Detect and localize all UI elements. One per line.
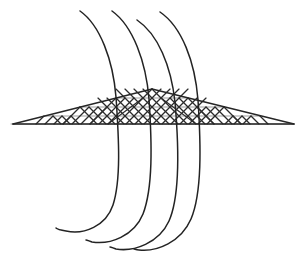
lattice-line-a: [233, 116, 241, 124]
plane-lattice: [36, 89, 268, 124]
lattice-line-b: [117, 89, 152, 124]
lattice-line-b: [90, 107, 107, 124]
lattice-line-b: [243, 116, 251, 124]
lattice-line-a: [134, 89, 169, 124]
field-lines-group: [56, 11, 200, 250]
lattice-line-a: [206, 107, 223, 124]
lattice-line-a: [53, 116, 61, 124]
lattice-line-b: [63, 116, 71, 124]
plane-row-lines: [11, 98, 293, 124]
lattice-line-a: [98, 107, 115, 124]
field-lines-through-plane-figure: [0, 0, 301, 260]
lattice-line-b: [198, 107, 215, 124]
lattice-line-b: [135, 89, 170, 124]
lattice-line-b: [72, 107, 89, 124]
lattice-line-b: [234, 116, 242, 124]
lattice-line-a: [89, 107, 106, 124]
lattice-line-b: [54, 116, 62, 124]
field-line-3: [110, 20, 178, 250]
lattice-line-a: [71, 116, 79, 124]
lattice-line-a: [62, 116, 70, 124]
lattice-line-b: [45, 116, 53, 124]
lattice-line-b: [207, 107, 224, 124]
lattice-line-a: [80, 107, 97, 124]
lattice-line-b: [189, 107, 206, 124]
figure-root: [0, 0, 301, 260]
lattice-line-a: [251, 116, 259, 124]
lattice-line-a: [152, 89, 187, 124]
lattice-line-b: [81, 107, 98, 124]
lattice-line-a: [215, 107, 232, 124]
lattice-line-a: [242, 116, 250, 124]
field-line-4: [134, 12, 200, 250]
lattice-line-b: [225, 116, 233, 124]
